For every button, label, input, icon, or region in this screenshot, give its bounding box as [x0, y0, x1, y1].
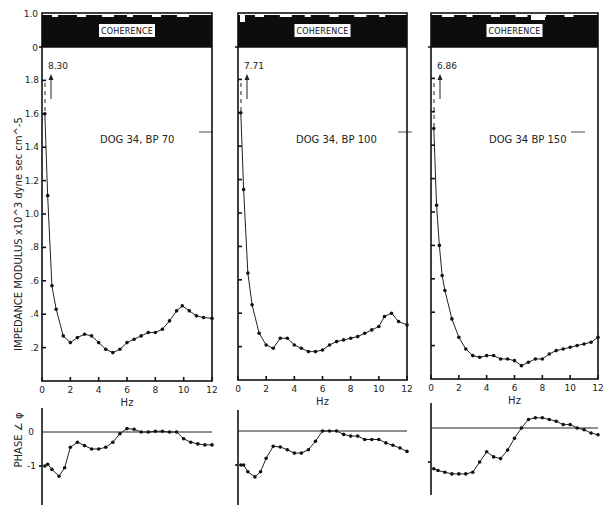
- impedance-point: [242, 188, 246, 192]
- phase-point: [182, 437, 186, 441]
- phase-point: [485, 450, 489, 454]
- phase-point: [125, 427, 129, 431]
- impedance-point: [478, 355, 482, 359]
- phase-point: [271, 445, 275, 449]
- phase-point: [499, 457, 503, 461]
- phase-point: [363, 438, 367, 442]
- x-tick-label: 12: [401, 384, 412, 394]
- impedance-point: [43, 112, 47, 116]
- phase-point: [335, 429, 339, 433]
- impedance-point: [405, 323, 409, 327]
- impedance-point: [139, 334, 143, 338]
- phase-point: [242, 463, 246, 467]
- x-tick-label: 10: [373, 384, 385, 394]
- phase-point: [76, 440, 80, 444]
- phase-point: [596, 433, 600, 437]
- impedance-point: [264, 343, 268, 347]
- peak-annotation: 7.71: [244, 61, 264, 71]
- impedance-line: [434, 129, 598, 366]
- phase-point: [471, 470, 475, 474]
- coherence-dip: [240, 15, 245, 22]
- phase-point: [278, 445, 282, 449]
- x-tick-label: 10: [564, 383, 576, 393]
- phase-point: [90, 447, 94, 451]
- coherence-dip: [354, 15, 366, 17]
- impedance-point: [513, 359, 517, 363]
- phase-point: [436, 469, 440, 473]
- phase-point: [464, 472, 468, 476]
- phase-point: [328, 429, 332, 433]
- impedance-point: [596, 335, 600, 339]
- impedance-point: [125, 341, 129, 345]
- coherence-label: COHERENCE: [297, 27, 349, 36]
- phase-point: [196, 442, 200, 446]
- impedance-point: [69, 341, 73, 345]
- x-tick-label: 6: [512, 383, 518, 393]
- phase-point: [253, 475, 257, 479]
- impedance-point: [314, 350, 318, 354]
- phase-point: [432, 467, 436, 471]
- phase-point: [342, 433, 346, 437]
- impedance-point: [61, 334, 65, 338]
- peak-annotation: 8.30: [48, 61, 68, 71]
- impedance-point: [250, 303, 254, 307]
- phase-point: [111, 440, 115, 444]
- impedance-point: [554, 349, 558, 353]
- phase-point: [246, 470, 250, 474]
- phase-point: [210, 443, 214, 447]
- coherence-dip: [177, 15, 189, 17]
- impedance-point: [257, 331, 261, 335]
- impedance-point: [210, 317, 214, 321]
- x-axis-label: Hz: [508, 395, 521, 406]
- impedance-point: [356, 335, 360, 339]
- impedance-point: [328, 343, 332, 347]
- coherence-dip: [255, 15, 264, 17]
- coherence-dip: [280, 15, 292, 17]
- phase-point: [520, 426, 524, 430]
- phase-point: [561, 423, 565, 427]
- x-tick-label: 8: [539, 383, 545, 393]
- impedance-point: [161, 327, 165, 331]
- phase-point: [97, 447, 101, 451]
- impedance-point: [435, 204, 439, 208]
- phase-point: [554, 419, 558, 423]
- impedance-point: [132, 337, 136, 341]
- panel-right: COHERENCE024681012HzDOG 34 BP 1506.86: [428, 13, 604, 495]
- phase-line: [241, 431, 407, 477]
- phase-point: [377, 438, 381, 442]
- phase-point: [513, 436, 517, 440]
- phase-point: [384, 441, 388, 445]
- phase-point: [203, 443, 207, 447]
- impedance-point: [485, 354, 489, 358]
- coherence-label: COHERENCE: [101, 27, 153, 36]
- x-tick-label: 8: [152, 385, 158, 395]
- panel-title: DOG 34 BP 150: [489, 134, 567, 145]
- impedance-point: [363, 331, 367, 335]
- coherence-dip: [330, 15, 339, 17]
- impedance-point: [582, 342, 586, 346]
- impedance-point: [97, 341, 101, 345]
- impedance-point: [293, 343, 297, 347]
- coherence-dip: [565, 15, 574, 17]
- y-tick-label: .6: [30, 276, 39, 286]
- phase-point: [356, 434, 360, 438]
- y-tick-label: 1.6: [25, 109, 40, 119]
- impedance-point: [520, 364, 524, 368]
- impedance-point: [440, 274, 444, 278]
- phase-tick-label: -1: [27, 461, 36, 471]
- x-tick-label: 0: [39, 385, 45, 395]
- x-tick-label: 0: [428, 383, 434, 393]
- x-axis-label: Hz: [316, 396, 329, 407]
- impedance-point: [527, 361, 531, 365]
- panel-title: DOG 34, BP 100: [296, 134, 377, 145]
- x-tick-label: 2: [67, 385, 73, 395]
- peak-annotation: 6.86: [437, 61, 457, 71]
- impedance-point: [471, 354, 475, 358]
- impedance-point: [443, 289, 447, 293]
- phase-point: [391, 443, 395, 447]
- phase-point: [69, 446, 73, 450]
- phase-point: [370, 438, 374, 442]
- impedance-point: [54, 307, 58, 311]
- impedance-point: [534, 357, 538, 361]
- impedance-point: [589, 340, 593, 344]
